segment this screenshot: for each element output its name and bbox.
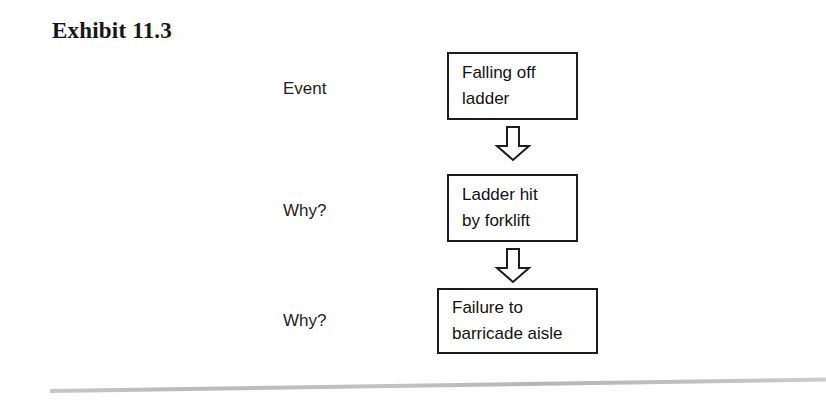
flow-node-why-2: Failure to barricade aisle	[437, 288, 598, 354]
stage-label-why-1: Why?	[283, 201, 326, 221]
flow-node-event-text: Falling off ladder	[449, 60, 543, 112]
flow-node-why-1-text: Ladder hit by forklift	[449, 182, 546, 234]
footer-divider	[50, 377, 826, 393]
stage-label-why-2: Why?	[283, 311, 326, 331]
down-arrow-icon	[494, 126, 532, 162]
flow-node-why-2-text: Failure to barricade aisle	[439, 295, 571, 347]
flow-node-event: Falling off ladder	[447, 52, 578, 120]
flow-node-why-1: Ladder hit by forklift	[447, 174, 578, 242]
five-whys-flowchart: Event Falling off ladder Why? Ladder hit…	[0, 0, 824, 370]
stage-label-event: Event	[283, 79, 326, 99]
down-arrow-icon	[494, 248, 532, 284]
